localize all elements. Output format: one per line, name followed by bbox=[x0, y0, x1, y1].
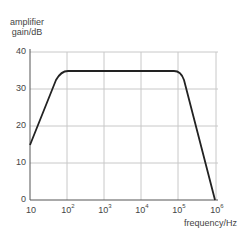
y-axis-label: amplifier gain/dB bbox=[5, 17, 49, 37]
x-tick-10e2: 102 bbox=[56, 205, 80, 215]
y-tick-10: 10 bbox=[12, 157, 26, 167]
x-tick-exp: 4 bbox=[145, 203, 148, 209]
x-tick-exp: 3 bbox=[108, 203, 111, 209]
y-tick-40: 40 bbox=[12, 46, 26, 56]
x-tick-10: 10 bbox=[19, 205, 43, 215]
x-tick-base: 10 bbox=[210, 205, 220, 215]
y-axis-label-line-2: gain/dB bbox=[5, 27, 49, 37]
x-tick-10e6: 106 bbox=[205, 205, 229, 215]
x-tick-exp: 6 bbox=[220, 203, 223, 209]
gain-curve bbox=[30, 71, 215, 200]
x-tick-base: 10 bbox=[98, 205, 108, 215]
x-tick-base: 10 bbox=[26, 205, 36, 215]
grid bbox=[30, 52, 218, 200]
x-tick-10e4: 104 bbox=[130, 205, 154, 215]
x-tick-base: 10 bbox=[61, 205, 71, 215]
y-tick-30: 30 bbox=[12, 83, 26, 93]
y-axis-label-line-1: amplifier bbox=[5, 17, 49, 27]
x-tick-base: 10 bbox=[172, 205, 182, 215]
x-tick-base: 10 bbox=[135, 205, 145, 215]
y-tick-20: 20 bbox=[12, 120, 26, 130]
x-axis-label: frequency/Hz bbox=[184, 218, 237, 228]
y-tick-0: 0 bbox=[12, 194, 26, 204]
x-tick-exp: 2 bbox=[71, 203, 74, 209]
x-tick-10e5: 105 bbox=[167, 205, 191, 215]
x-tick-exp: 5 bbox=[182, 203, 185, 209]
x-tick-10e3: 103 bbox=[93, 205, 117, 215]
